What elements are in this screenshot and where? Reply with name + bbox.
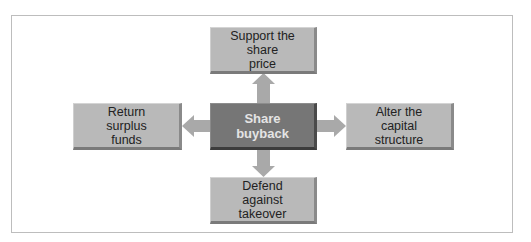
- node-defend-against-takeover: Defend against takeover: [210, 177, 317, 224]
- arrow-right-icon: [317, 115, 346, 137]
- node-return-surplus-funds: Return surplus funds: [73, 103, 182, 150]
- node-label: Support the share price: [211, 29, 314, 71]
- node-alter-capital-structure: Alter the capital structure: [346, 103, 454, 150]
- arrow-left-icon: [182, 115, 210, 137]
- node-label: Defend against takeover: [211, 179, 314, 221]
- node-support-share-price: Support the share price: [210, 27, 317, 74]
- node-label: Return surplus funds: [74, 105, 179, 147]
- node-label: Alter the capital structure: [347, 105, 451, 147]
- node-share-buyback: Share buyback: [210, 103, 317, 150]
- arrow-up-icon: [252, 73, 275, 103]
- center-label: Share buyback: [224, 111, 301, 141]
- arrow-down-icon: [252, 150, 275, 177]
